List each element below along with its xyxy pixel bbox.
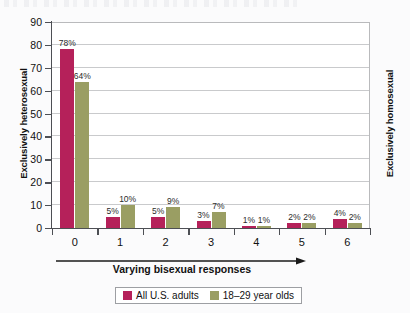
bar-young-3 <box>212 212 226 228</box>
bar-young-1 <box>121 205 135 228</box>
x-tick-label: 6 <box>332 236 362 248</box>
bar-adults-1 <box>106 217 120 228</box>
y-tick-mark <box>45 205 52 206</box>
bar-value-label: 2% <box>288 212 300 222</box>
x-axis-line <box>51 228 371 229</box>
gridline <box>52 135 369 136</box>
y-axis-line <box>51 21 52 229</box>
legend-item-young: 18–29 year olds <box>210 290 294 301</box>
gridline <box>52 113 369 114</box>
bar-chart-figure: Exclusively heterosexual Exclusively hom… <box>0 0 410 313</box>
y-tick-label: 80 <box>2 39 42 51</box>
y-tick-mark <box>45 68 52 69</box>
bar-value-label: 1% <box>243 215 255 225</box>
x-tick-label: 2 <box>151 236 181 248</box>
legend-label-adults: All U.S. adults <box>136 290 199 301</box>
bar-value-label: 5% <box>106 206 118 216</box>
x-tick-mark <box>325 229 326 235</box>
x-tick-mark <box>97 229 98 235</box>
y-tick-label: 30 <box>2 153 42 165</box>
bar-adults-0 <box>60 49 74 228</box>
y-tick-label: 60 <box>2 85 42 97</box>
bar-value-label: 10% <box>119 194 136 204</box>
x-tick-label: 0 <box>60 236 90 248</box>
x-tick-mark <box>279 229 280 235</box>
y-tick-mark <box>45 114 52 115</box>
legend-swatch-young <box>210 291 219 300</box>
y-tick-label: 10 <box>2 199 42 211</box>
bar-value-label: 3% <box>197 210 209 220</box>
x-tick-mark <box>234 229 235 235</box>
x-tick-label: 4 <box>241 236 271 248</box>
y-tick-label: 50 <box>2 108 42 120</box>
bar-value-label: 2% <box>349 212 361 222</box>
y-tick-mark <box>45 45 52 46</box>
x-tick-mark <box>370 229 371 235</box>
bar-adults-3 <box>197 221 211 228</box>
bar-value-label: 4% <box>334 208 346 218</box>
y-tick-label: 0 <box>2 222 42 234</box>
y-axis-ticks: 0102030405060708090 <box>0 0 42 313</box>
x-tick-label: 5 <box>287 236 317 248</box>
x-tick-mark <box>188 229 189 235</box>
scan-artifact <box>4 0 304 7</box>
x-axis-title: Varying bisexual responses <box>52 263 312 275</box>
plot-area: 78%64%5%10%5%9%3%7%1%1%2%2%4%2% <box>52 22 370 228</box>
legend-item-adults: All U.S. adults <box>123 290 199 301</box>
bar-value-label: 2% <box>303 212 315 222</box>
gridline <box>52 67 369 68</box>
gridline <box>52 44 369 45</box>
legend-swatch-adults <box>123 291 132 300</box>
gridline <box>52 158 369 159</box>
gridline <box>52 204 369 205</box>
bar-value-label: 7% <box>212 201 224 211</box>
bar-adults-2 <box>151 217 165 228</box>
x-tick-mark <box>52 229 53 235</box>
chart-legend: All U.S. adults 18–29 year olds <box>115 287 302 304</box>
y-tick-mark <box>45 159 52 160</box>
bar-value-label: 1% <box>258 215 270 225</box>
y-tick-label: 20 <box>2 176 42 188</box>
bar-value-label: 5% <box>152 206 164 216</box>
y-axis-label-right: Exclusively homosexual <box>384 49 395 199</box>
x-tick-label: 1 <box>105 236 135 248</box>
y-tick-mark <box>45 182 52 183</box>
bar-value-label: 64% <box>74 71 91 81</box>
bar-value-label: 78% <box>59 38 76 48</box>
y-tick-mark <box>45 91 52 92</box>
y-tick-label: 70 <box>2 62 42 74</box>
legend-label-young: 18–29 year olds <box>223 290 294 301</box>
gridline <box>52 90 369 91</box>
x-tick-mark <box>143 229 144 235</box>
bar-young-2 <box>166 207 180 228</box>
y-tick-mark <box>45 228 52 229</box>
y-tick-label: 40 <box>2 130 42 142</box>
y-tick-mark <box>45 22 52 23</box>
y-tick-mark <box>45 136 52 137</box>
gridline <box>52 181 369 182</box>
x-tick-label: 3 <box>196 236 226 248</box>
bar-adults-6 <box>333 219 347 228</box>
bar-value-label: 9% <box>167 196 179 206</box>
bar-young-0 <box>75 82 89 228</box>
y-tick-label: 90 <box>2 16 42 28</box>
